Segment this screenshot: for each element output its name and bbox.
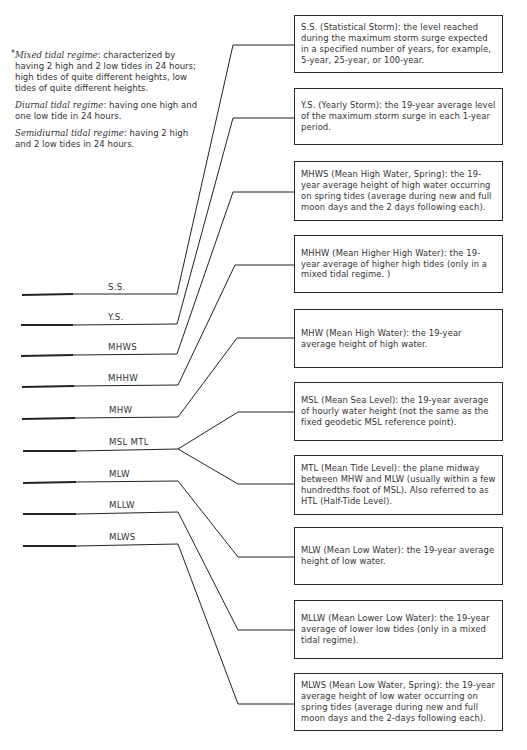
definition-text: MHW (Mean High Water): the 19-year avera…	[301, 328, 496, 350]
definition-box-mhws: MHWS (Mean High Water, Spring): the 19-y…	[294, 161, 503, 221]
level-label-mhw: MHW	[109, 405, 132, 415]
level-line-mllw	[23, 512, 294, 630]
definition-text: Y.S. (Yearly Storm): the 19-year average…	[301, 100, 496, 132]
definition-text: MSL (Mean Sea Level): the 19-year averag…	[301, 395, 496, 427]
definition-text: MLW (Mean Low Water): the 19-year averag…	[301, 545, 496, 567]
level-label-mhhw: MHHW	[108, 373, 138, 383]
level-line-mhws	[21, 192, 294, 356]
definition-text: MLLW (Mean Lower Low Water): the 19-year…	[301, 613, 496, 645]
level-label-mhws: MHWS	[108, 342, 137, 352]
level-line-mlws	[23, 544, 294, 704]
definition-text: MLWS (Mean Low Water, Spring): the 19-ye…	[301, 680, 496, 723]
level-label-mlw: MLW	[109, 469, 130, 479]
definition-box-mhw: MHW (Mean High Water): the 19-year avera…	[294, 309, 503, 368]
definition-box-mtl: MTL (Mean Tide Level): the plane midway …	[294, 455, 503, 515]
definition-text: S.S. (Statistical Storm): the level reac…	[301, 22, 496, 65]
definition-box-mhhw: MHHW (Mean Higher High Water): the 19-ye…	[294, 235, 503, 293]
definition-text: MHWS (Mean High Water, Spring): the 19-y…	[301, 169, 496, 212]
level-label-msl-mtl: MSL MTL	[109, 437, 149, 447]
definition-box-mlw: MLW (Mean Low Water): the 19-year averag…	[294, 527, 503, 585]
definition-box-mlws: MLWS (Mean Low Water, Spring): the 19-ye…	[294, 673, 503, 731]
level-label-ys: Y.S.	[108, 312, 124, 322]
level-line-ss	[22, 45, 294, 295]
definition-box-msl: MSL (Mean Sea Level): the 19-year averag…	[294, 382, 503, 441]
definition-box-ys: Y.S. (Yearly Storm): the 19-year average…	[294, 88, 503, 145]
level-line-mhw	[22, 338, 294, 419]
level-label-ss: S.S.	[108, 282, 126, 292]
definition-text: MHHW (Mean Higher High Water): the 19-ye…	[301, 248, 496, 280]
definition-text: MTL (Mean Tide Level): the plane midway …	[301, 463, 496, 506]
definition-box-mllw: MLLW (Mean Lower Low Water): the 19-year…	[294, 600, 503, 659]
level-line-msl-mtl	[23, 412, 294, 484]
level-label-mllw: MLLW	[109, 500, 135, 510]
level-label-mlws: MLWS	[109, 532, 136, 542]
definition-box-ss: S.S. (Statistical Storm): the level reac…	[294, 15, 503, 73]
